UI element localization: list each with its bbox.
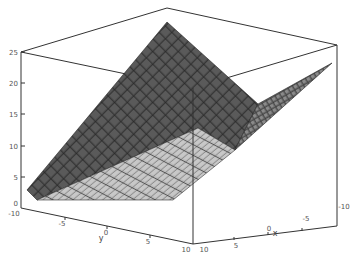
x-axis: 10 5 0 -5 -10 x (200, 203, 350, 254)
z-tick-20: 20 (9, 80, 18, 88)
x-tick-10: 10 (200, 246, 209, 254)
z-tick-10: 10 (9, 143, 18, 151)
surface-plot: 25 20 15 10 5 0 -10 -5 0 5 10 y 10 5 0 -… (0, 0, 356, 256)
y-tick-0: 0 (104, 229, 108, 237)
z-tick-25: 25 (9, 49, 18, 57)
z-tick-5: 5 (14, 174, 18, 182)
y-axis-label: y (99, 234, 104, 243)
surface (27, 22, 332, 200)
x-tick-0: 0 (267, 225, 271, 233)
y-axis: -10 -5 0 5 10 y (8, 210, 190, 254)
x-tick-5: 5 (234, 242, 238, 250)
y-tick-neg10: -10 (8, 210, 19, 218)
z-tick-15: 15 (9, 111, 18, 119)
y-tick-neg5: -5 (59, 220, 66, 228)
y-tick-5: 5 (146, 238, 150, 246)
z-axis: 25 20 15 10 5 0 (9, 49, 25, 208)
y-tick-10: 10 (182, 246, 191, 254)
x-tick-neg10: -10 (338, 203, 349, 211)
z-tick-0: 0 (14, 200, 18, 208)
x-tick-neg5: -5 (303, 215, 310, 223)
x-axis-label: x (273, 229, 278, 238)
